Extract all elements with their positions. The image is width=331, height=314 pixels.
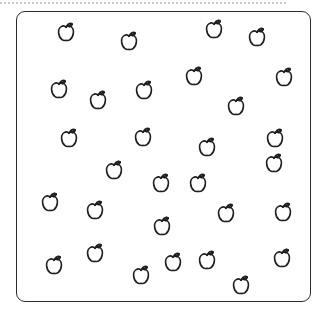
apple-icon — [85, 200, 106, 222]
apple-icon — [44, 255, 65, 277]
apple-icon — [131, 265, 152, 287]
apple-icon — [49, 79, 70, 101]
apple-icon — [88, 90, 109, 112]
worksheet-canvas — [0, 0, 331, 314]
apple-icon — [133, 127, 154, 149]
apple-icon — [231, 275, 252, 297]
apple-icon — [151, 173, 172, 195]
apple-icon — [184, 66, 205, 88]
apple-icon — [216, 203, 237, 225]
apple-icon — [59, 128, 80, 150]
apple-icon — [40, 192, 61, 214]
apple-icon — [204, 19, 225, 41]
top-dotted-rule — [0, 2, 286, 4]
apple-icon — [247, 27, 268, 49]
apple-icon — [104, 160, 125, 182]
apple-container — [16, 11, 311, 302]
apple-icon — [264, 153, 285, 175]
apple-icon — [152, 216, 173, 238]
apple-icon — [85, 243, 106, 265]
apple-icon — [134, 80, 155, 102]
apple-icon — [226, 96, 247, 118]
apple-icon — [273, 202, 294, 224]
apple-icon — [188, 173, 209, 195]
apple-icon — [197, 137, 218, 159]
apple-icon — [272, 248, 293, 270]
apple-icon — [274, 67, 295, 89]
apple-icon — [56, 22, 77, 44]
apple-icon — [163, 252, 184, 274]
apple-icon — [197, 250, 218, 272]
apple-icon — [119, 31, 140, 53]
apple-icon — [265, 128, 286, 150]
